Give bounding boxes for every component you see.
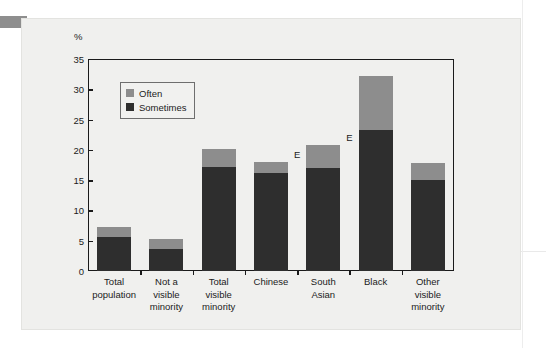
bar-segment-often [306,145,340,168]
x-axis-tick-mark [297,271,298,275]
x-axis-label-line: visible [402,289,454,302]
x-axis-tick-mark [140,271,141,275]
x-axis-label-line: Total [193,276,245,289]
y-axis-tick-label: 15 [60,175,84,186]
scanned-page: % 05101520253035 TotalpopulationNot avis… [0,0,546,348]
x-axis-label-line: minority [140,301,192,314]
x-axis-tick-mark [193,271,194,275]
x-axis-label-line: Total [88,276,140,289]
bar-segment-often [254,162,288,173]
bar-segment-sometimes [359,130,393,271]
x-axis-tick-label: Not avisibleminority [140,276,192,314]
x-axis-tick-mark [402,271,403,275]
x-axis-tick-label: Totalvisibleminority [193,276,245,314]
y-axis-tick-mark [88,180,93,181]
y-axis-tick-mark [88,241,93,242]
bar-segment-often [411,163,445,180]
bar-annotation-e: E [294,149,300,160]
x-axis-label-line: Other [402,276,454,289]
legend-label-often: Often [139,88,162,99]
bar-segment-often [202,149,236,167]
y-axis-tick-mark [88,210,93,211]
x-axis-tick-label: Totalpopulation [88,276,140,301]
x-axis-label-line: South [297,276,349,289]
y-axis-tick-mark [88,120,93,121]
x-axis-tick-labels: TotalpopulationNot avisibleminorityTotal… [88,276,454,326]
x-axis-tick-mark [245,271,246,275]
bar-group [149,239,183,271]
y-axis-tick-label: 25 [60,114,84,125]
x-axis-label-line: minority [193,301,245,314]
x-axis-tick-label: SouthAsian [297,276,349,301]
bar-segment-sometimes [411,180,445,271]
x-axis-label-line: Black [349,276,401,289]
x-axis-tick-label: Chinese [245,276,297,289]
bar-segment-sometimes [202,167,236,271]
y-axis-tick-label: 5 [60,235,84,246]
bar-segment-sometimes [254,173,288,271]
y-axis-tick-label: 10 [60,205,84,216]
bar-group [411,163,445,271]
bar-group [359,76,393,271]
bar-group [306,145,340,271]
x-axis-label-line: minority [402,301,454,314]
page-background-rule-vertical [522,0,523,348]
legend-item-often: Often [126,86,187,100]
x-axis-label-line: visible [140,289,192,302]
bar-segment-sometimes [306,168,340,271]
bar-segment-often [97,227,131,237]
y-axis-tick-label: 0 [60,266,84,277]
y-axis-tick-mark [88,89,93,90]
x-axis-label-line: Asian [297,289,349,302]
y-axis-unit-label: % [74,31,82,42]
legend-swatch-often [126,89,134,97]
y-axis-tick-label: 20 [60,144,84,155]
figure-panel: % 05101520253035 TotalpopulationNot avis… [21,18,521,330]
bar-segment-often [149,239,183,249]
x-axis-label-line: visible [193,289,245,302]
x-axis-label-line: Not a [140,276,192,289]
y-axis-tick-labels: 05101520253035 [58,59,84,271]
legend-swatch-sometimes [126,103,134,111]
bar-segment-sometimes [149,249,183,271]
x-axis-label-line: Chinese [245,276,297,289]
x-axis-tick-label: Othervisibleminority [402,276,454,314]
legend-item-sometimes: Sometimes [126,100,187,114]
bar-group [254,162,288,271]
y-axis-tick-label: 30 [60,84,84,95]
x-axis-tick-mark [349,271,350,275]
bar-segment-often [359,76,393,131]
x-axis-tick-label: Black [349,276,401,289]
bar-segment-sometimes [97,237,131,271]
x-axis-label-line: population [88,289,140,302]
y-axis-tick-label: 35 [60,54,84,65]
bar-annotation-e: E [346,132,352,143]
chart-legend: Often Sometimes [120,82,195,119]
legend-label-sometimes: Sometimes [139,102,187,113]
y-axis-tick-mark [88,150,93,151]
bar-group [202,149,236,271]
bar-group [97,227,131,271]
stacked-bar-chart: % 05101520253035 TotalpopulationNot avis… [22,19,522,331]
